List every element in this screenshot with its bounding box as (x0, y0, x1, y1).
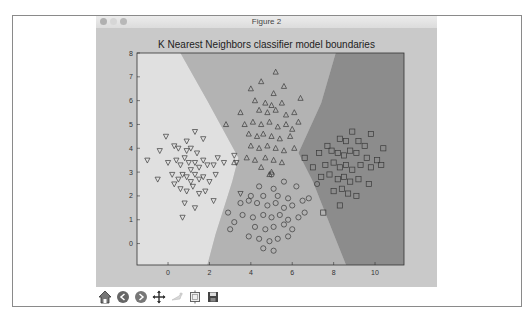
figure-canvas: K Nearest Neighbors classifier model bou… (96, 28, 437, 287)
y-tick-label: 2 (129, 192, 133, 199)
save-button[interactable] (205, 289, 220, 304)
back-arrow-icon (116, 290, 130, 304)
title-bar[interactable]: Figure 2 (96, 16, 437, 28)
pan-button[interactable] (151, 289, 166, 304)
y-tick-label: 7 (129, 73, 133, 80)
home-icon (98, 290, 112, 304)
scatter-plot: 0246810012345678 (96, 28, 437, 287)
window-title: Figure 2 (96, 16, 437, 28)
pan-move-icon (152, 290, 166, 304)
save-floppy-icon (206, 290, 220, 304)
x-tick-label: 4 (249, 269, 253, 276)
navigation-toolbar (96, 287, 437, 306)
forward-button[interactable] (133, 289, 148, 304)
y-tick-label: 4 (129, 145, 133, 152)
x-tick-label: 10 (371, 269, 379, 276)
y-tick-label: 3 (129, 169, 133, 176)
x-tick-label: 0 (166, 269, 170, 276)
x-tick-label: 6 (290, 269, 294, 276)
forward-arrow-icon (134, 290, 148, 304)
x-tick-label: 2 (207, 269, 211, 276)
zoom-rect-button[interactable] (169, 289, 184, 304)
y-tick-label: 0 (129, 240, 133, 247)
subplots-config-icon (188, 290, 202, 304)
subplots-button[interactable] (187, 289, 202, 304)
plot-area (137, 53, 404, 265)
y-tick-label: 6 (129, 97, 133, 104)
zoom-rect-icon (170, 290, 184, 304)
figure-window: Figure 2 K Nearest Neighbors classifier … (96, 16, 437, 306)
y-tick-label: 8 (129, 50, 133, 57)
x-tick-label: 8 (332, 269, 336, 276)
y-tick-label: 5 (129, 121, 133, 128)
back-button[interactable] (115, 289, 130, 304)
y-tick-label: 1 (129, 216, 133, 223)
home-button[interactable] (97, 289, 112, 304)
